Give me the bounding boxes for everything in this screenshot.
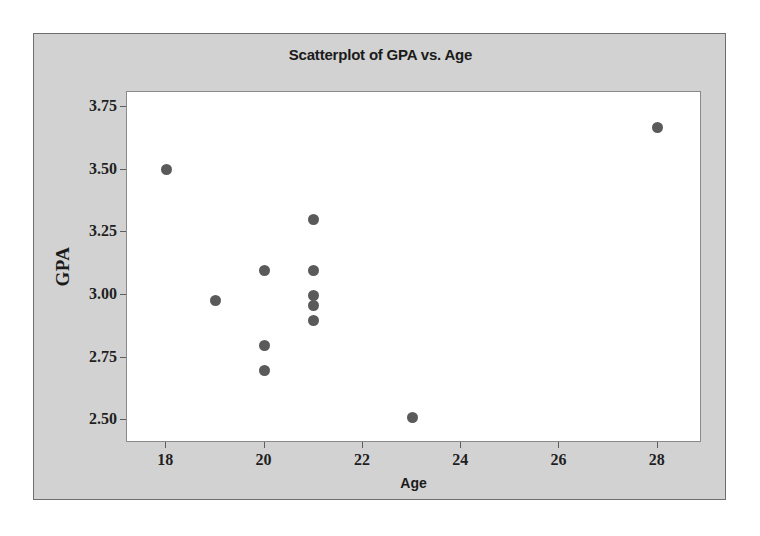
scatter-point xyxy=(259,365,270,376)
scatter-point xyxy=(308,265,319,276)
scatter-point xyxy=(308,300,319,311)
y-axis: 2.502.753.003.253.503.75 xyxy=(34,91,126,442)
scatter-point xyxy=(259,265,270,276)
x-axis-tick-label: 28 xyxy=(649,451,665,469)
y-axis-tick-label: 3.25 xyxy=(89,222,117,240)
x-axis-tick-label: 22 xyxy=(354,451,370,469)
scatter-point xyxy=(407,412,418,423)
x-axis-tick xyxy=(558,442,559,448)
x-axis-tick-label: 18 xyxy=(157,451,173,469)
scatter-points-layer xyxy=(127,92,700,441)
x-axis-tick-label: 26 xyxy=(550,451,566,469)
scatter-point xyxy=(259,340,270,351)
x-axis-tick xyxy=(657,442,658,448)
x-axis-tick xyxy=(264,442,265,448)
y-axis-tick-label: 3.75 xyxy=(89,97,117,115)
x-axis-title: Age xyxy=(126,475,701,491)
y-axis-tick-label: 3.50 xyxy=(89,160,117,178)
scatter-point xyxy=(308,290,319,301)
scatter-point xyxy=(210,295,221,306)
scatter-point xyxy=(308,214,319,225)
x-axis-tick xyxy=(165,442,166,448)
scatter-point xyxy=(308,315,319,326)
y-axis-tick-label: 2.50 xyxy=(89,410,117,428)
figure-root: Scatterplot of GPA vs. Age GPA 2.502.753… xyxy=(0,0,760,536)
y-axis-tick-label: 2.75 xyxy=(89,348,117,366)
x-axis-tick-label: 20 xyxy=(256,451,272,469)
scatter-point xyxy=(652,122,663,133)
scatter-point xyxy=(161,164,172,175)
plot-area xyxy=(126,91,701,442)
x-axis-tick xyxy=(362,442,363,448)
y-axis-tick-label: 3.00 xyxy=(89,285,117,303)
chart-title: Scatterplot of GPA vs. Age xyxy=(34,46,727,63)
x-axis-tick-label: 24 xyxy=(452,451,468,469)
x-axis-tick xyxy=(460,442,461,448)
graph-panel: Scatterplot of GPA vs. Age GPA 2.502.753… xyxy=(33,33,726,500)
